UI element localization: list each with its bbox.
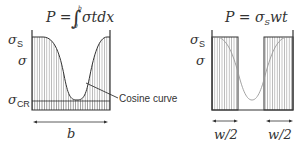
effective-width-block-right (264, 37, 293, 110)
left-equation-p: P = (45, 9, 72, 25)
label-sigma-s-right: σS (190, 32, 205, 49)
arrow-left-icon (212, 120, 216, 123)
effective-width-block-left (212, 37, 238, 110)
arrow-right-icon (234, 120, 238, 123)
right-equation: P = σSwt (224, 9, 288, 27)
right-diagram: P = σSwt σS σ w/2 w/2 (190, 9, 293, 142)
left-diagram: P = ∫ b 0 σtdx σS σ σCR Cosine curve b (8, 4, 178, 141)
label-sigma-left: σ (18, 53, 28, 68)
width-w2-right-label: w/2 (268, 127, 292, 142)
integral-lower-limit: 0 (74, 22, 78, 29)
arrow-left-icon (33, 121, 37, 124)
arrow-right-icon (289, 120, 293, 123)
effective-width-diagram: P = ∫ b 0 σtdx σS σ σCR Cosine curve b P… (0, 0, 296, 146)
arrow-left-icon (266, 120, 270, 123)
label-sigma-s-left: σS (8, 32, 23, 49)
left-equation-integrand: σtdx (82, 9, 114, 25)
label-sigma-right: σ (196, 53, 206, 68)
arrow-right-icon (104, 121, 108, 124)
stress-cr-hatch (32, 100, 110, 110)
cosine-curve-callout: Cosine curve (119, 93, 178, 104)
width-w2-left-label: w/2 (214, 127, 238, 142)
label-sigma-cr: σCR (8, 92, 30, 109)
width-b-label: b (67, 126, 75, 141)
